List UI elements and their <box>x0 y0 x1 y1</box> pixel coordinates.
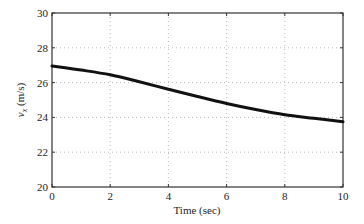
y-tick-label: 30 <box>37 7 49 19</box>
axis-ticks <box>52 13 343 187</box>
x-tick-label: 0 <box>49 190 55 202</box>
plot-area-frame <box>52 13 343 187</box>
y-axis-label-unit: (m/s) <box>14 82 27 108</box>
tick-labels: 0246810202224262830 <box>37 7 349 202</box>
y-tick-label: 22 <box>37 146 48 158</box>
x-tick-label: 2 <box>107 190 113 202</box>
line-chart: 0246810202224262830 Time (sec) vx (m/s) <box>0 0 364 224</box>
x-tick-label: 4 <box>166 190 172 202</box>
y-tick-label: 28 <box>37 42 49 54</box>
grid-lines <box>52 13 343 187</box>
y-axis-label: vx (m/s) <box>14 82 29 117</box>
y-tick-label: 24 <box>37 111 49 123</box>
x-tick-label: 6 <box>224 190 230 202</box>
x-axis-label: Time (sec) <box>174 204 221 217</box>
x-tick-label: 10 <box>338 190 350 202</box>
series-line-vx <box>52 66 343 122</box>
y-tick-label: 26 <box>37 77 49 89</box>
x-tick-label: 8 <box>282 190 288 202</box>
y-tick-label: 20 <box>37 181 49 193</box>
